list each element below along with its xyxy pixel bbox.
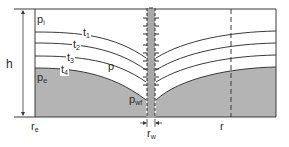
height-arrow-down-icon xyxy=(21,112,25,116)
label-rw: rw xyxy=(147,128,156,140)
rw-arrow-left-icon xyxy=(143,121,147,125)
wellbore xyxy=(147,8,155,118)
label-t3: t3 xyxy=(66,52,75,64)
label-t2: t2 xyxy=(72,39,81,51)
label-h: h xyxy=(6,58,13,70)
label-pwf: pwf xyxy=(129,94,142,106)
rw-arrow-right-icon xyxy=(155,121,159,125)
label-t1: t1 xyxy=(82,27,91,39)
label-r: r xyxy=(220,121,224,132)
curve-t2-right xyxy=(156,43,276,70)
curve-t1-right xyxy=(156,31,276,58)
label-p: p xyxy=(108,61,114,72)
label-pi: pi xyxy=(37,14,45,26)
shaded-pressure-region-right xyxy=(156,67,276,117)
label-pe: pe xyxy=(37,72,47,84)
label-re: re xyxy=(31,121,39,133)
label-t4: t4 xyxy=(60,64,69,76)
height-arrow-up-icon xyxy=(21,10,25,14)
